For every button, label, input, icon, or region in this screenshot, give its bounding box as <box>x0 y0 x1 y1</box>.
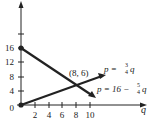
supply-line <box>21 76 102 105</box>
x-tick-label: 8 <box>74 110 79 120</box>
demand-frac-den: 4 <box>137 89 140 95</box>
y-axis-arrow-icon <box>19 1 24 8</box>
y-tick-label: 8 <box>10 72 15 82</box>
x-tick-label: 4 <box>47 110 52 120</box>
x-tick-label: 2 <box>33 110 38 120</box>
x-axis-label: q <box>141 104 146 115</box>
x-tick-label: 10 <box>86 110 96 120</box>
demand-frac-num: 5 <box>137 82 140 88</box>
y-tick-label: 16 <box>5 43 15 53</box>
supply-frac-num: 3 <box>125 62 128 68</box>
intersection-label: (8, 6) <box>69 68 89 78</box>
supply-label: p = <box>103 64 117 74</box>
origin-point <box>18 102 23 107</box>
y-tick-label: 12 <box>5 57 14 67</box>
demand-label: p = 16 − <box>96 84 129 94</box>
demand-intercept-point <box>18 45 23 50</box>
y-tick-label: 4 <box>10 86 15 96</box>
supply-demand-chart: 4 8 12 16 0 2 4 6 8 10 q (8, 6) p = 3 4 … <box>0 0 149 124</box>
origin-label: 0 <box>10 103 15 113</box>
supply-label-tail: q <box>130 64 135 74</box>
demand-label-tail: q <box>142 84 147 94</box>
supply-frac-den: 4 <box>125 69 128 75</box>
x-tick-label: 6 <box>60 110 65 120</box>
